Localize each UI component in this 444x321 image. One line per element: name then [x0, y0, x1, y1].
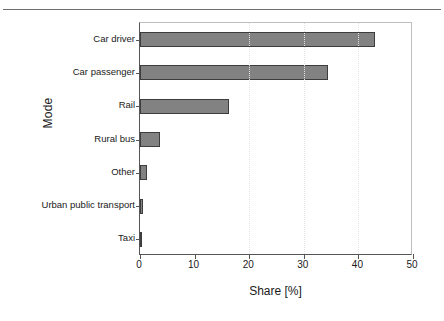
y-axis-tick [136, 40, 140, 41]
y-axis-tick [136, 140, 140, 141]
bar-row [140, 31, 411, 49]
bar-row [140, 197, 411, 215]
header-rule [3, 9, 441, 10]
figure: Mode Share [%] Car driverCar passengerRa… [0, 0, 444, 321]
bar [140, 199, 143, 214]
bar-row [140, 64, 411, 82]
y-axis-tick-label: Car passenger [73, 67, 135, 77]
gridline [304, 23, 305, 254]
bar [140, 99, 229, 114]
y-axis-tick [136, 73, 140, 74]
x-axis-tick-label: 0 [119, 259, 159, 270]
y-axis-tick [136, 106, 140, 107]
x-axis-tick-label: 10 [174, 259, 214, 270]
bar [140, 165, 147, 180]
x-axis-tick-label: 30 [283, 259, 323, 270]
plot-area [139, 22, 412, 255]
bar-row [140, 97, 411, 115]
y-axis-tick [136, 173, 140, 174]
y-axis-tick-label: Rail [119, 100, 135, 110]
y-axis-tick [136, 239, 140, 240]
x-axis-tick-label: 40 [337, 259, 377, 270]
x-axis-tick-label: 20 [228, 259, 268, 270]
bar [140, 32, 375, 47]
bar-row [140, 131, 411, 149]
bar [140, 132, 160, 147]
bar-row [140, 230, 411, 248]
y-axis-tick-label: Rural bus [94, 134, 135, 144]
y-axis-tick-label: Taxi [118, 233, 135, 243]
bar [140, 232, 142, 247]
y-axis-tick [136, 206, 140, 207]
y-axis-tick-label: Urban public transport [42, 200, 135, 210]
y-axis-tick-label: Other [111, 167, 135, 177]
x-axis-title: Share [%] [139, 284, 412, 298]
bar [140, 65, 328, 80]
x-axis-tick-label: 50 [392, 259, 432, 270]
y-axis-title: Mode [41, 73, 55, 153]
y-axis-tick-label: Car driver [93, 34, 135, 44]
gridline [358, 23, 359, 254]
bar-series [140, 23, 411, 254]
bar-row [140, 164, 411, 182]
gridline [249, 23, 250, 254]
